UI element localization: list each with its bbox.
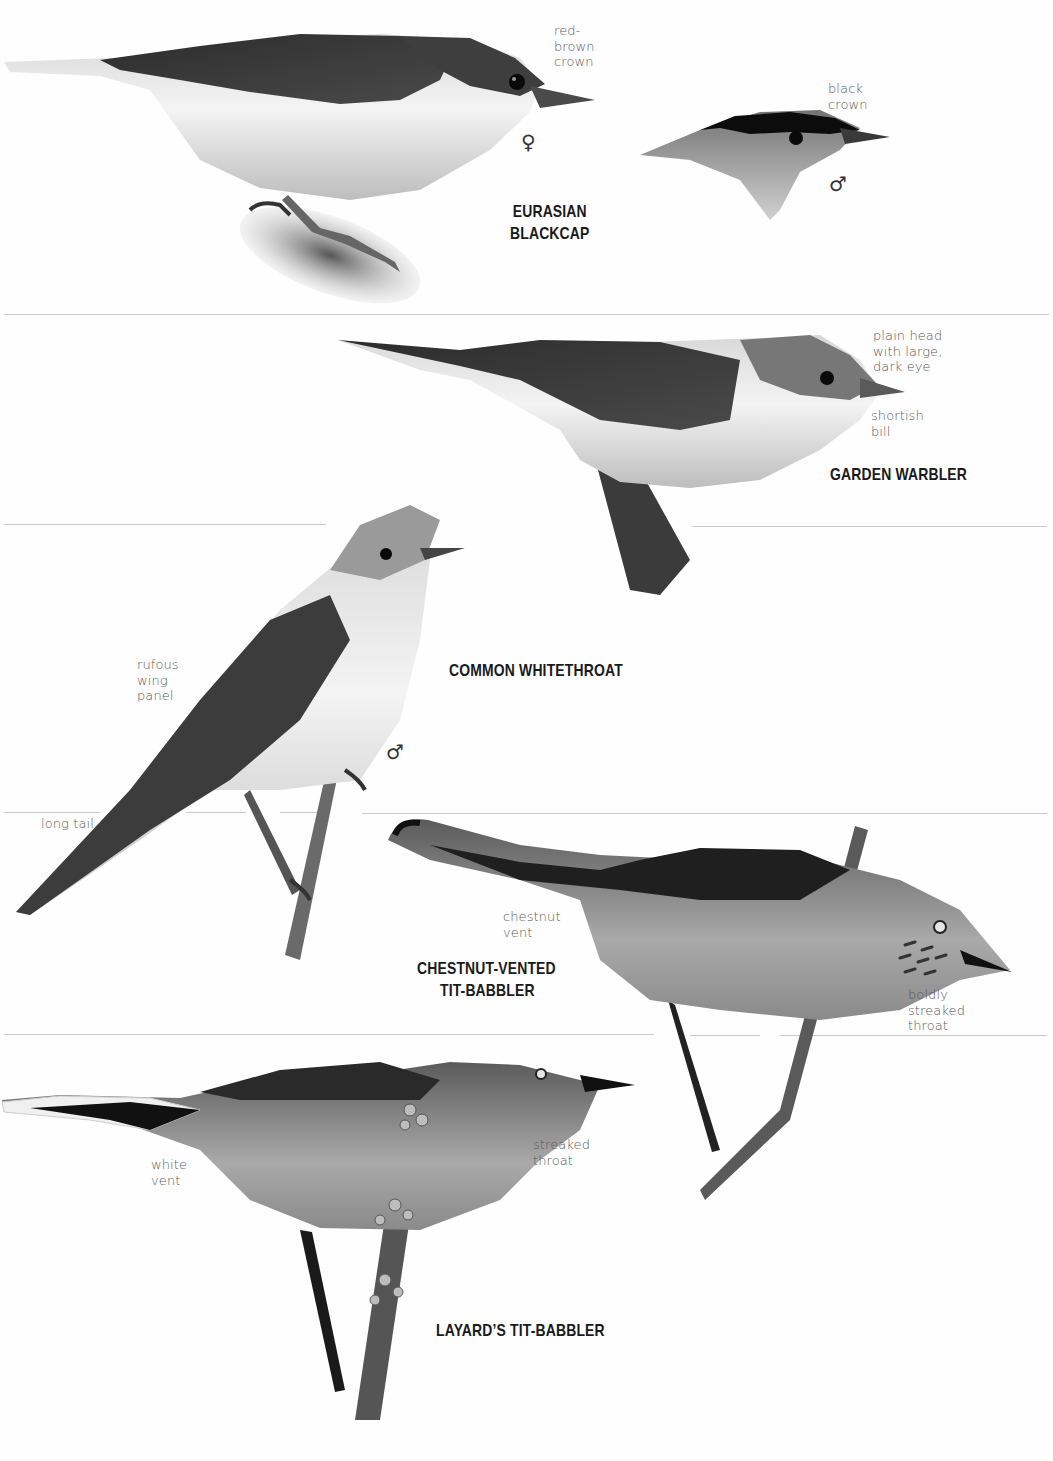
blackcap-male-illustration: [640, 110, 890, 220]
annotation-boldly-streaked-throat: boldly streaked throat: [908, 987, 965, 1034]
species-name-common-whitethroat: COMMON WHITETHROAT: [449, 660, 623, 682]
annotation-streaked-throat: streaked throat: [533, 1137, 590, 1168]
male-symbol-icon: ♂: [386, 742, 404, 762]
annotation-red-brown-crown: red- brown crown: [554, 23, 595, 70]
female-symbol-icon: ♀: [521, 132, 536, 152]
annotation-black-crown: black crown: [828, 81, 868, 112]
common-whitethroat-illustration: [16, 505, 465, 960]
annotation-chestnut-vent: chestnut vent: [503, 909, 561, 940]
male-symbol-icon: ♂: [829, 174, 847, 194]
species-name-line: CHESTNUT-VENTED: [417, 958, 556, 980]
species-name-layards-tit-babbler: LAYARD’S TIT-BABBLER: [436, 1320, 605, 1342]
layards-tit-babbler-illustration: [2, 1062, 635, 1420]
species-name-line: EURASIAN: [510, 201, 590, 223]
species-name-eurasian-blackcap: EURASIAN BLACKCAP: [510, 201, 590, 245]
annotation-rufous-wing-panel: rufous wing panel: [137, 657, 179, 704]
annotation-shortish-bill: shortish bill: [871, 408, 924, 439]
species-name-line: TIT-BABBLER: [417, 980, 556, 1002]
species-name-chestnut-vented-tit-babbler: CHESTNUT-VENTED TIT-BABBLER: [417, 958, 556, 1002]
annotation-long-tail: long tail: [41, 816, 94, 832]
annotation-plain-head: plain head with large, dark eye: [873, 328, 942, 375]
annotation-white-vent: white vent: [151, 1157, 187, 1188]
blackcap-female-illustration: [4, 34, 595, 323]
species-name-line: BLACKCAP: [510, 223, 590, 245]
species-name-garden-warbler: GARDEN WARBLER: [830, 464, 967, 486]
field-guide-page: red- brown crown black crown ♀ ♂ EURASIA…: [0, 0, 1053, 1461]
